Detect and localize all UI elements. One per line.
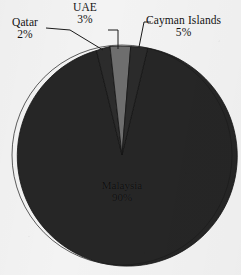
pie-label-uae-value: 3% [73, 14, 97, 26]
pie-label-uae: UAE 3% [73, 2, 97, 25]
pie-label-cayman-islands-value: 5% [146, 27, 221, 39]
pie-label-qatar-value: 2% [12, 29, 38, 41]
pie-chart-figure: Qatar 2% UAE 3% Cayman Islands 5% Malays… [0, 0, 241, 275]
pie-label-qatar-name: Qatar [12, 17, 38, 29]
pie-label-malaysia-value: 90% [82, 192, 162, 204]
leader-line-qatar [46, 28, 103, 50]
pie-label-malaysia-name: Malaysia [82, 180, 162, 192]
pie-label-qatar: Qatar 2% [12, 17, 38, 40]
pie-label-cayman-islands: Cayman Islands 5% [146, 15, 221, 38]
pie-label-malaysia: Malaysia 90% [82, 180, 162, 203]
pie-chart-svg [0, 0, 241, 275]
pie-label-uae-name: UAE [73, 2, 97, 14]
pie-label-cayman-islands-name: Cayman Islands [146, 15, 221, 27]
pie-slices [12, 45, 237, 266]
